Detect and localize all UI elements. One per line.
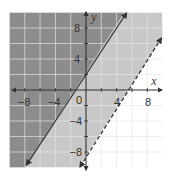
- y-tick-label-8: 8: [74, 22, 80, 34]
- x-tick-label-4: 4: [114, 96, 120, 108]
- y-tick-label-4: 4: [74, 53, 80, 65]
- x-tick-label-neg8: −8: [18, 96, 31, 108]
- x-tick-label-8: 8: [145, 96, 151, 108]
- origin-label: 0: [76, 94, 82, 106]
- inequality-graph: −8 −4 0 4 8 8 4 −4 −8 x y: [0, 0, 170, 180]
- y-axis-label: y: [90, 10, 97, 24]
- x-axis-label: x: [150, 74, 157, 88]
- y-tick-label-neg8: −8: [69, 146, 82, 158]
- y-tick-label-neg4: −4: [69, 115, 82, 127]
- x-tick-label-neg4: −4: [48, 96, 61, 108]
